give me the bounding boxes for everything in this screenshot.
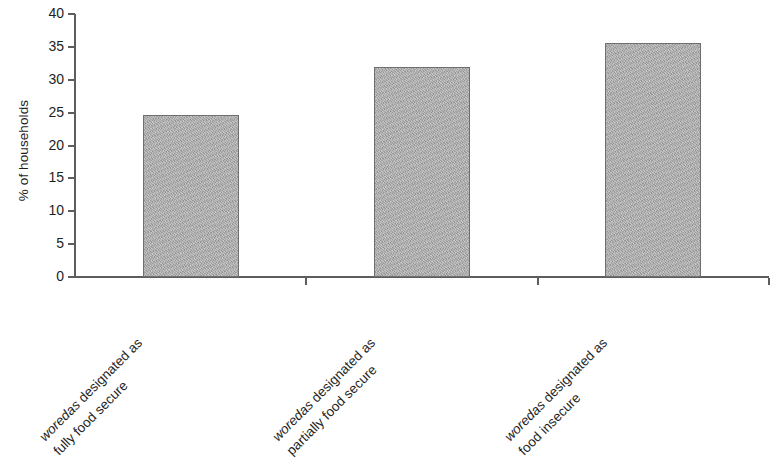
y-tick-label: 25 [24, 105, 64, 119]
y-tick-mark [68, 13, 75, 15]
y-tick-mark [68, 79, 75, 81]
y-tick-mark [68, 177, 75, 179]
y-tick-label: 10 [24, 203, 64, 217]
y-tick-label: 0 [24, 269, 64, 283]
y-tick-label: 20 [24, 138, 64, 152]
category-label: woredas designated asfully food secure [35, 334, 161, 460]
y-tick-label: 15 [24, 170, 64, 184]
y-tick-mark [68, 243, 75, 245]
y-tick-label: 30 [24, 72, 64, 86]
y-tick-mark [68, 210, 75, 212]
y-tick-mark [68, 276, 75, 278]
y-tick-mark [68, 46, 75, 48]
bar [143, 115, 239, 277]
bar [374, 67, 470, 277]
y-tick-mark [68, 112, 75, 114]
y-tick-mark [68, 145, 75, 147]
bar [605, 43, 701, 277]
x-tick-mark [537, 278, 539, 285]
y-tick-label: 35 [24, 39, 64, 53]
category-label: woredas designated asfood insecure [500, 334, 626, 460]
x-tick-mark [305, 278, 307, 285]
x-tick-mark [768, 278, 770, 285]
y-tick-label: 5 [24, 236, 64, 250]
category-label: woredas designated aspartially food secu… [268, 334, 394, 460]
y-tick-label: 40 [24, 6, 64, 20]
